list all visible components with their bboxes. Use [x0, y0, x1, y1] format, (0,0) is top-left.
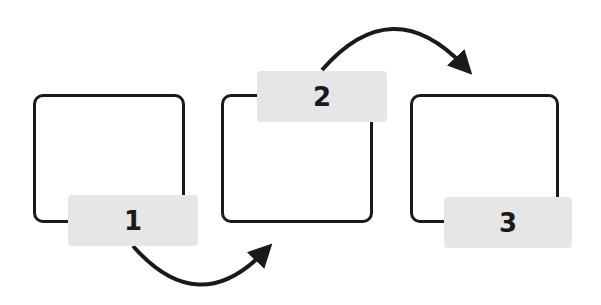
step-2-number: 2: [313, 82, 331, 112]
arrow-2-to-3: [322, 29, 464, 70]
step-3-number: 3: [499, 208, 517, 238]
step-1-label: 1: [68, 195, 198, 246]
step-3-label: 3: [444, 197, 572, 248]
connector-arrows: [0, 0, 601, 305]
step-1-number: 1: [124, 206, 142, 236]
arrow-1-to-2: [133, 246, 264, 285]
step-2-label: 2: [257, 71, 387, 122]
